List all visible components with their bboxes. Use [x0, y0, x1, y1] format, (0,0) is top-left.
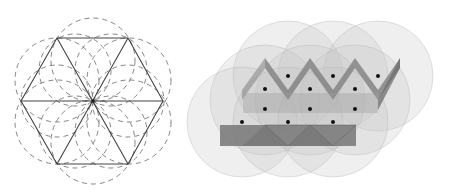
diagram-canvas	[0, 0, 449, 194]
hexagon-figure	[15, 18, 171, 184]
center-point	[91, 99, 95, 103]
sphere-figure	[187, 21, 433, 177]
